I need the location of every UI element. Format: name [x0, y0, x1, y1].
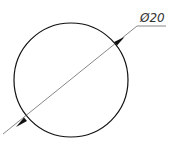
technical-drawing: Ø20 — [0, 0, 176, 143]
diameter-label: Ø20 — [139, 11, 165, 25]
circle-outline — [14, 23, 128, 137]
